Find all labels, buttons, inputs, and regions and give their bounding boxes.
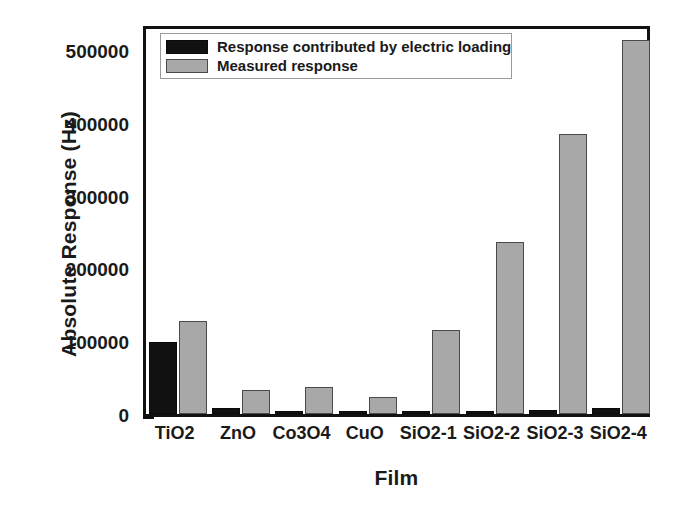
legend-entry-measured-response: Measured response (166, 56, 506, 75)
legend-swatch-gray-icon (166, 59, 208, 73)
bar-cuo-electric-loading (339, 411, 367, 414)
x-tick-label: SiO2-2 (460, 423, 523, 444)
x-tick-label: SiO2-4 (587, 423, 650, 444)
bar-co3o4-measured (305, 387, 333, 414)
bar-cuo-measured (369, 397, 397, 414)
y-tick-label: 200000 (19, 259, 129, 281)
bar-zno-electric-loading (212, 408, 240, 414)
bar-co3o4-electric-loading (275, 411, 303, 414)
plot-area (143, 26, 650, 417)
x-tick-label: SiO2-3 (523, 423, 586, 444)
x-tick-label: SiO2-1 (397, 423, 460, 444)
y-axis-title: Absolute Response (Hz) (57, 39, 81, 429)
y-tick-label: 100000 (19, 332, 129, 354)
chart-legend: Response contributed by electric loading… (160, 33, 512, 79)
x-tick-label: TiO2 (143, 423, 206, 444)
legend-label-electric-loading: Response contributed by electric loading (217, 39, 511, 55)
bar-sio2-4-electric-loading (592, 408, 620, 414)
bar-sio2-1-measured (432, 330, 460, 414)
legend-entry-electric-loading: Response contributed by electric loading (166, 37, 506, 56)
y-tick-label: 400000 (19, 114, 129, 136)
bar-zno-measured (242, 390, 270, 414)
x-axis-title: Film (143, 466, 650, 490)
bar-sio2-3-measured (559, 134, 587, 414)
bar-sio2-2-measured (496, 242, 524, 414)
bar-tio2-measured (179, 321, 207, 414)
bar-sio2-1-electric-loading (402, 411, 430, 414)
bars-container (146, 29, 647, 414)
legend-swatch-black-icon (166, 40, 208, 54)
bar-tio2-electric-loading (149, 342, 177, 414)
x-tick-label: Co3O4 (270, 423, 333, 444)
bar-sio2-2-electric-loading (466, 411, 494, 414)
y-tick-label: 300000 (19, 187, 129, 209)
legend-label-measured-response: Measured response (217, 58, 358, 74)
bar-sio2-4-measured (622, 40, 650, 414)
x-tick-label: CuO (333, 423, 396, 444)
x-tick-label: ZnO (206, 423, 269, 444)
y-tick-label: 500000 (19, 41, 129, 63)
y-tick-label: 0 (19, 405, 129, 427)
bar-sio2-3-electric-loading (529, 410, 557, 414)
bar-chart-figure: Absolute Response (Hz) Film 010000020000… (0, 0, 684, 513)
